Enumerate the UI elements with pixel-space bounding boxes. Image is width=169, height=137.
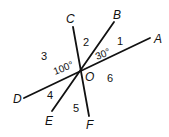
angle-number-4: 4 bbox=[47, 89, 53, 101]
point-label-d: D bbox=[13, 92, 22, 106]
angle-number-2: 2 bbox=[83, 36, 89, 48]
angle-number-6: 6 bbox=[107, 72, 113, 84]
point-label-e: E bbox=[45, 114, 54, 128]
angle-measure-doc: 100° bbox=[52, 59, 75, 77]
point-label-a: A bbox=[153, 32, 162, 46]
angle-number-3: 3 bbox=[41, 50, 47, 62]
point-label-b: B bbox=[113, 8, 121, 22]
geometry-diagram: A B C D E F O 1 2 3 4 5 6 30° 100° bbox=[0, 0, 169, 137]
angle-number-5: 5 bbox=[73, 102, 79, 114]
point-label-c: C bbox=[66, 12, 75, 26]
angle-number-1: 1 bbox=[117, 35, 123, 47]
point-label-o: O bbox=[85, 70, 94, 84]
point-label-f: F bbox=[86, 118, 94, 132]
